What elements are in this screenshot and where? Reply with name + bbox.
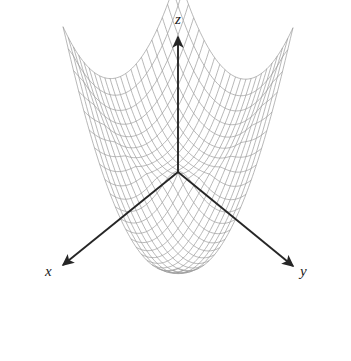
surface-plot-figure: z x y bbox=[0, 0, 351, 361]
surface-plot-canvas bbox=[0, 0, 351, 361]
mesh-line bbox=[162, 17, 277, 124]
mesh-line bbox=[115, 78, 230, 234]
mesh-line bbox=[79, 18, 194, 125]
mesh-line bbox=[63, 27, 178, 271]
mesh-line bbox=[173, 0, 288, 96]
z-axis-label: z bbox=[175, 12, 181, 27]
mesh-line bbox=[141, 76, 256, 257]
x-axis-label: x bbox=[45, 264, 52, 279]
y-axis-label: y bbox=[300, 264, 307, 279]
mesh-line bbox=[136, 78, 251, 250]
mesh-line bbox=[105, 78, 220, 251]
mesh-line bbox=[84, 30, 199, 137]
coordinate-axes bbox=[63, 37, 293, 266]
mesh-line bbox=[157, 29, 272, 137]
mesh-line bbox=[100, 76, 215, 258]
